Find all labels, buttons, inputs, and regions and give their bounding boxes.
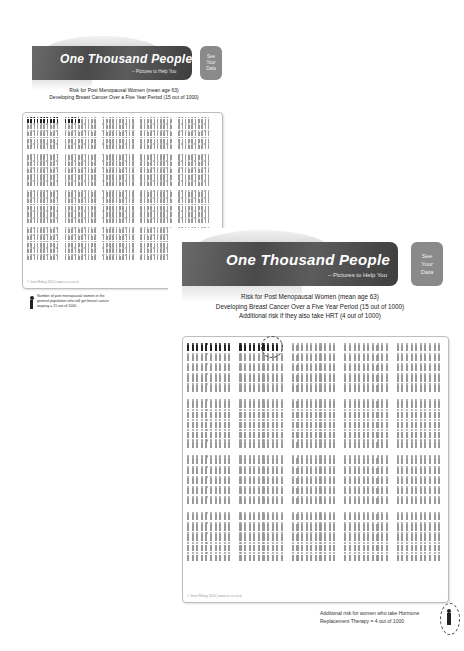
person-figure xyxy=(187,385,189,391)
person-figure xyxy=(191,206,193,210)
person-figure xyxy=(34,249,36,253)
person-figure xyxy=(34,199,36,203)
person-figure xyxy=(301,458,303,464)
person-figure xyxy=(228,401,230,407)
person-figure xyxy=(292,458,294,464)
person-figure xyxy=(239,412,241,418)
person-figure xyxy=(253,365,255,371)
person-figure xyxy=(372,458,374,464)
person-figure xyxy=(372,432,374,438)
person-figure xyxy=(85,155,87,159)
person-figure xyxy=(292,355,294,361)
person-figure xyxy=(150,182,152,186)
person-figure xyxy=(91,175,93,179)
person-figure xyxy=(109,206,111,210)
person-figure xyxy=(381,442,383,448)
person-figure xyxy=(27,256,29,260)
person-figure xyxy=(224,468,226,474)
person-figure xyxy=(122,139,124,143)
person-figure xyxy=(415,524,417,530)
person-figure xyxy=(329,422,331,428)
person-figure xyxy=(386,422,388,428)
person-figure xyxy=(85,125,87,129)
person-figure xyxy=(103,132,105,136)
person-figure xyxy=(132,206,134,210)
person-figure xyxy=(34,169,36,173)
person-figure xyxy=(411,432,413,438)
person-figure xyxy=(170,139,172,143)
person-figure xyxy=(258,545,260,551)
person-figure xyxy=(281,385,283,391)
person-figure xyxy=(34,182,36,186)
person-figure xyxy=(239,345,241,351)
person-figure xyxy=(119,199,121,203)
person-figure xyxy=(116,219,118,223)
person-figure xyxy=(37,192,39,196)
person-figure xyxy=(88,155,90,159)
person-figure xyxy=(27,125,29,129)
person-figure xyxy=(185,155,187,159)
person-figure xyxy=(267,514,269,520)
person-figure xyxy=(420,345,422,351)
person-figure xyxy=(401,432,403,438)
person-figure xyxy=(249,534,251,540)
person-figure xyxy=(205,545,207,551)
person-figure xyxy=(185,182,187,186)
person-figure xyxy=(215,458,217,464)
person-figure xyxy=(81,256,83,260)
person-figure xyxy=(324,365,326,371)
person-figure xyxy=(333,478,335,484)
person-figure xyxy=(215,555,217,561)
person-figure xyxy=(249,468,251,474)
person-figure xyxy=(438,412,440,418)
person-figure xyxy=(210,375,212,381)
person-figure xyxy=(170,162,172,166)
person-figure xyxy=(292,545,294,551)
person-figure xyxy=(78,212,80,216)
person-figure xyxy=(210,555,212,561)
person-figure xyxy=(244,468,246,474)
person-figure xyxy=(65,212,67,216)
person-figure xyxy=(122,212,124,216)
person-figure xyxy=(116,256,118,260)
person-figure xyxy=(163,243,165,247)
person-figure xyxy=(310,458,312,464)
person-figure xyxy=(43,145,45,149)
person-figure xyxy=(329,385,331,391)
person-figure xyxy=(258,355,260,361)
person-figure xyxy=(196,401,198,407)
person-figure xyxy=(157,169,159,173)
person-figure xyxy=(228,524,230,530)
person-figure xyxy=(372,524,374,530)
see-your-data-button[interactable]: See Your Data xyxy=(411,242,443,286)
person-figure xyxy=(65,132,67,136)
person-figure xyxy=(386,498,388,504)
person-figure xyxy=(344,401,346,407)
person-figure xyxy=(103,139,105,143)
person-figure xyxy=(397,442,399,448)
person-figure xyxy=(57,139,59,143)
person-figure xyxy=(34,219,36,223)
person-figure xyxy=(205,182,207,186)
person-figure xyxy=(333,458,335,464)
person-figure xyxy=(160,182,162,186)
person-figure xyxy=(192,345,194,351)
person-figure xyxy=(53,175,55,179)
person-figure xyxy=(358,365,360,371)
person-figure xyxy=(57,199,59,203)
person-figure xyxy=(310,514,312,520)
person-figure xyxy=(253,458,255,464)
person-figure xyxy=(281,442,283,448)
person-figure xyxy=(91,249,93,253)
person-figure xyxy=(47,249,49,253)
person-figure xyxy=(424,442,426,448)
see-your-data-button[interactable]: See Your Data xyxy=(200,46,222,80)
person-figure xyxy=(276,524,278,530)
person-figure xyxy=(57,243,59,247)
person-figure xyxy=(112,169,114,173)
person-figure xyxy=(301,468,303,474)
person-figure xyxy=(81,243,83,247)
person-figure xyxy=(319,468,321,474)
person-figure xyxy=(106,212,108,216)
person-figure xyxy=(420,365,422,371)
